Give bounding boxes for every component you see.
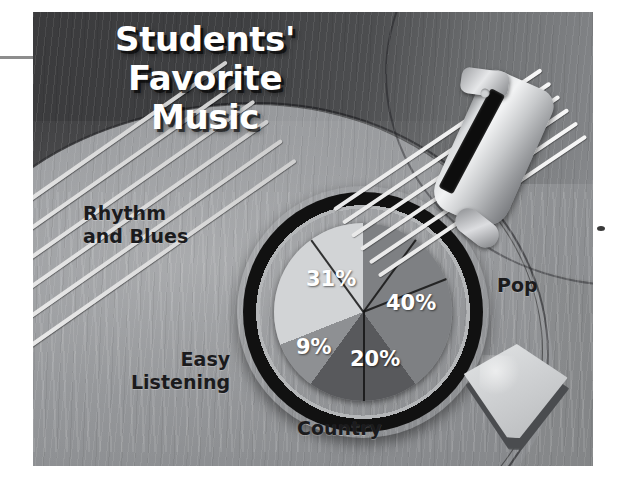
guitar-pick	[461, 342, 573, 450]
pie-value-easy: 9%	[296, 335, 332, 359]
label-pop: Pop	[497, 274, 538, 297]
title-line-2: Favorite	[55, 59, 355, 98]
scan-artifact-speck	[597, 226, 605, 231]
label-rhythm-line-1: Rhythm	[83, 202, 166, 224]
label-easy-line-1: Easy	[181, 348, 231, 370]
figure-image: Students' Favorite Music 40% 20% 9% 31%	[33, 12, 593, 466]
pick-highlight	[479, 355, 520, 396]
pie-value-country: 20%	[350, 347, 400, 371]
label-country: Country	[297, 417, 382, 440]
title-line-1: Students'	[55, 20, 355, 59]
label-rhythm-line-2: and Blues	[83, 225, 188, 247]
pie-value-rnb: 31%	[306, 267, 356, 291]
page-title: Students' Favorite Music	[55, 20, 355, 137]
title-line-3: Music	[55, 98, 355, 137]
label-easy-line-2: Listening	[131, 371, 230, 393]
left-margin-rule	[0, 56, 36, 59]
label-rhythm-and-blues: Rhythm and Blues	[83, 202, 188, 248]
label-easy-listening: Easy Listening	[131, 348, 230, 394]
